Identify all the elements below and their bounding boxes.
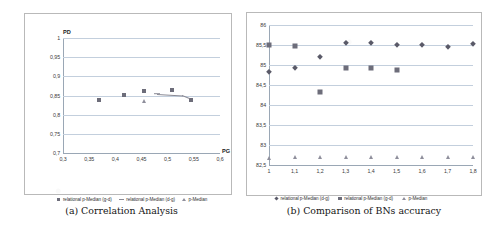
y-axis-tick-label: 0,95 xyxy=(50,54,60,60)
diamond-marker-icon xyxy=(274,196,278,200)
gridline xyxy=(269,125,473,126)
data-point xyxy=(394,42,400,48)
legend-label: relational p-Median (g-d) xyxy=(63,197,112,202)
triangle-marker-icon xyxy=(182,198,186,201)
panel-correlation-analysis: PD PG 10,950,90,850,80,750,70,30,350,40,… xyxy=(0,0,243,233)
x-axis-title-pg: PG xyxy=(222,148,230,154)
legend-label: relational p-Median (g-d) xyxy=(344,196,393,201)
legend-item-relational-p-median-g-d: relational p-Median (g-d) xyxy=(338,196,393,201)
data-point xyxy=(369,66,374,71)
data-point xyxy=(394,68,399,73)
gridline xyxy=(63,57,220,58)
x-axis-line xyxy=(63,153,220,154)
data-point xyxy=(317,54,323,60)
data-point xyxy=(170,88,174,92)
x-axis-tick-label: 1,4 xyxy=(367,168,374,174)
data-point xyxy=(122,93,126,97)
data-point xyxy=(154,93,160,95)
gridline xyxy=(269,145,473,146)
legend-item-relational-p-median-d-g: relational p-Median (d-g) xyxy=(275,196,329,201)
data-point xyxy=(292,65,298,71)
y-axis-tick-label: 82,5 xyxy=(256,162,266,168)
triangle-marker-icon xyxy=(402,197,406,200)
y-axis-tick-label: 0,75 xyxy=(50,131,60,137)
gridline xyxy=(63,38,220,39)
square-marker-icon xyxy=(338,197,341,200)
panel-bns-accuracy: 8685,58584,58483,58382,511,11,21,31,41,5… xyxy=(243,0,485,233)
y-axis-tick-label: 84,5 xyxy=(256,82,266,88)
y-axis-title-pd: PD xyxy=(63,29,71,35)
x-axis-tick-label: 1,2 xyxy=(316,168,323,174)
x-axis-tick-label: 1 xyxy=(268,168,271,174)
data-point xyxy=(446,155,450,159)
x-axis-tick-label: 0,3 xyxy=(59,156,66,162)
caption-b: (b) Comparison of BNs accuracy xyxy=(243,205,485,216)
data-point xyxy=(142,99,146,103)
plot-area-left: 10,950,90,850,80,750,70,30,350,40,450,50… xyxy=(63,38,220,153)
x-axis-tick-label: 1,8 xyxy=(469,168,476,174)
x-axis-tick-label: 0,6 xyxy=(216,156,223,162)
y-axis-tick-label: 85 xyxy=(260,62,266,68)
square-marker-icon xyxy=(57,198,60,201)
gridline xyxy=(63,134,220,135)
legend-left: relational p-Median (g-d) relational p-M… xyxy=(57,197,207,202)
legend-label: p-Median xyxy=(408,196,427,201)
y-axis-tick-label: 0,8 xyxy=(53,112,60,118)
x-axis-tick-label: 1,7 xyxy=(444,168,451,174)
y-axis-tick-label: 86 xyxy=(260,22,266,28)
data-point xyxy=(266,69,272,75)
gridline xyxy=(63,115,220,116)
y-axis-tick-label: 83 xyxy=(260,142,266,148)
gridline xyxy=(63,76,220,77)
figure-container: PD PG 10,950,90,850,80,750,70,30,350,40,… xyxy=(0,0,485,233)
data-point xyxy=(344,155,348,159)
x-axis-tick-label: 0,5 xyxy=(164,156,171,162)
chart-frame-right: 8685,58584,58483,58382,511,11,21,31,41,5… xyxy=(246,12,482,196)
data-point xyxy=(292,44,297,49)
data-point xyxy=(142,89,146,93)
data-point xyxy=(395,155,399,159)
x-axis-tick-label: 0,35 xyxy=(84,156,94,162)
gridline xyxy=(269,25,473,26)
y-axis-tick-label: 84 xyxy=(260,102,266,108)
plot-area-right: 8685,58584,58483,58382,511,11,21,31,41,5… xyxy=(269,25,473,165)
caption-a: (a) Correlation Analysis xyxy=(0,205,243,216)
legend-item-p-median: p-Median xyxy=(402,196,427,201)
y-axis-tick-label: 83,5 xyxy=(256,122,266,128)
x-axis-tick-label: 1,1 xyxy=(291,168,298,174)
data-point xyxy=(267,156,271,160)
x-axis-tick-label: 0,55 xyxy=(189,156,199,162)
legend-item-relational-p-median-d-g: relational p-Median (d-g) xyxy=(119,197,175,202)
gridline xyxy=(269,105,473,106)
data-point xyxy=(369,155,373,159)
data-point xyxy=(471,155,475,159)
data-point xyxy=(419,42,425,48)
data-point xyxy=(343,66,348,71)
legend-label: relational p-Median (d-g) xyxy=(281,196,330,201)
x-axis-tick-label: 1,3 xyxy=(342,168,349,174)
data-point xyxy=(293,155,297,159)
x-axis-tick-label: 0,45 xyxy=(137,156,147,162)
data-point xyxy=(318,90,323,95)
x-axis-tick-label: 1,5 xyxy=(393,168,400,174)
data-point xyxy=(445,44,451,50)
legend-label: relational p-Median (d-g) xyxy=(126,197,175,202)
legend-label: p-Median xyxy=(188,197,207,202)
legend-item-p-median: p-Median xyxy=(182,197,207,202)
data-point xyxy=(97,98,101,102)
legend-right: relational p-Median (d-g) relational p-M… xyxy=(275,196,427,201)
x-axis-tick-label: 0,4 xyxy=(112,156,119,162)
y-axis-tick-label: 1 xyxy=(57,35,60,41)
gridline xyxy=(63,96,220,97)
chart-frame-left: PD PG 10,950,90,850,80,750,70,30,350,40,… xyxy=(24,13,232,195)
y-axis-tick-label: 0,85 xyxy=(50,93,60,99)
gridline xyxy=(269,85,473,86)
data-point xyxy=(318,155,322,159)
line-marker-icon xyxy=(119,199,124,200)
y-axis-tick-label: 0,9 xyxy=(53,73,60,79)
x-axis-tick-label: 1,6 xyxy=(418,168,425,174)
legend-item-relational-p-median-g-d: relational p-Median (g-d) xyxy=(57,197,112,202)
data-point xyxy=(420,155,424,159)
data-point xyxy=(470,41,476,47)
x-axis-line xyxy=(269,165,473,166)
